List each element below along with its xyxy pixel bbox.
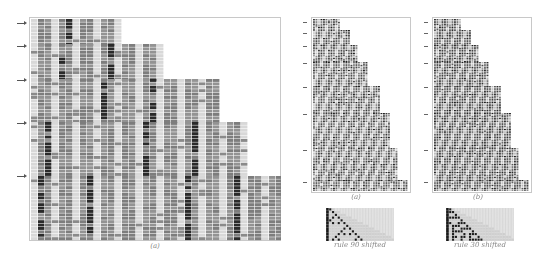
cellular-automaton-left-a [29,17,281,241]
row-tick-icon [424,22,428,23]
panel-caption: (a) [145,242,165,250]
row-tick-icon [303,182,307,183]
row-tick-icon [303,114,307,115]
row-tick-icon [424,182,428,183]
row-arrow-icon [17,80,25,81]
row-tick-icon [424,33,428,34]
panel-caption: (a) [346,193,366,201]
row-arrow-icon [17,123,25,124]
row-tick-icon [424,114,428,115]
inset-label: rule 90 shifted [320,241,400,249]
row-tick-icon [303,33,307,34]
panel-caption: (b) [468,193,488,201]
row-tick-icon [303,87,307,88]
row-tick-icon [303,63,307,64]
inset-label: rule 30 shifted [440,241,520,249]
row-tick-icon [303,22,307,23]
row-tick-icon [424,63,428,64]
inset-rule-90-inset [326,208,394,241]
inset-rule-30-inset [446,208,514,241]
cellular-automaton-right-a [311,17,411,193]
row-tick-icon [424,150,428,151]
row-arrow-icon [17,176,25,177]
row-tick-icon [424,87,428,88]
cellular-automaton-right-b [432,17,532,193]
row-arrow-icon [17,46,25,47]
row-arrow-icon [17,23,25,24]
row-tick-icon [303,46,307,47]
row-tick-icon [303,150,307,151]
row-tick-icon [424,46,428,47]
